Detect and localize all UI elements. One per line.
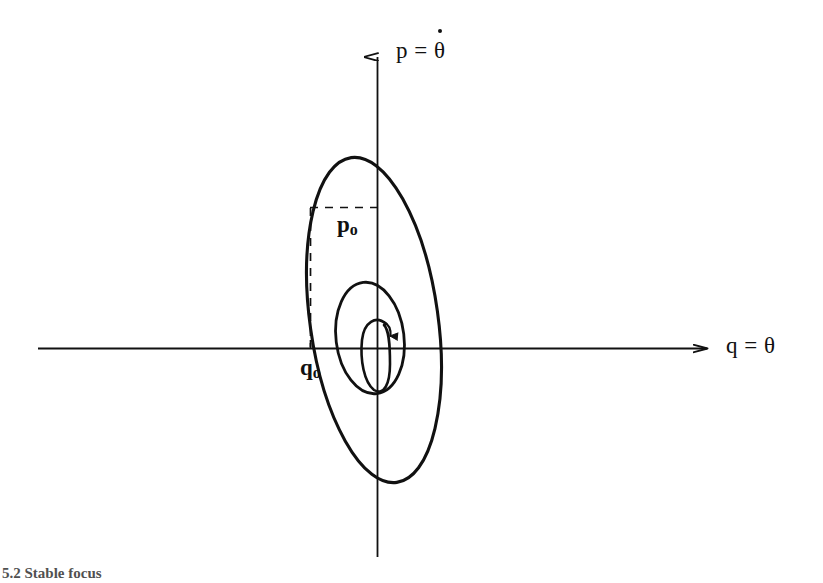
- q-axis-label: q = θ: [726, 333, 776, 359]
- q0-label: qo: [300, 355, 321, 381]
- dot-accent-icon: [438, 29, 442, 33]
- theta-dot-accent-group: θ: [434, 38, 446, 64]
- q-axis-label-symbol: θ: [764, 333, 776, 358]
- inner-orbit: [362, 320, 391, 391]
- p0-label: po: [337, 212, 358, 238]
- figure-caption: 5.2 Stable focus: [2, 568, 102, 582]
- p-axis-label-prefix: p =: [396, 38, 434, 63]
- q-axis-label-prefix: q =: [726, 333, 764, 358]
- q0-label-base: q: [300, 355, 313, 380]
- p-axis-label-symbol: θ: [434, 38, 446, 63]
- phase-space-figure: p = θ q = θ po qo 5.2 Stable focus: [0, 0, 823, 583]
- figure-caption-strip: 5.2 Stable focus: [0, 568, 823, 583]
- p0-label-subscript: o: [350, 221, 358, 238]
- p-axis-label: p = θ: [396, 38, 446, 64]
- q0-label-subscript: o: [313, 364, 321, 381]
- middle-orbit: [329, 278, 410, 397]
- phase-plot-canvas: [0, 0, 823, 583]
- p0-label-base: p: [337, 212, 350, 237]
